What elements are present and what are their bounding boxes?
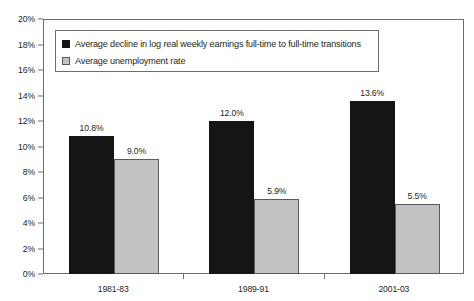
x-tick-label: 2001-03 — [378, 284, 409, 294]
bar-2001-03-series-0 — [350, 101, 395, 274]
x-tick-label: 1989-91 — [238, 284, 269, 294]
legend-item-label: Average unemployment rate — [75, 56, 185, 66]
y-tick-label: 10% — [18, 142, 35, 152]
y-tick-label: 16% — [18, 65, 35, 75]
legend-item: Average decline in log real weekly earni… — [62, 36, 378, 52]
y-tick-label: 18% — [18, 40, 35, 50]
bar-2001-03-series-1 — [395, 204, 440, 274]
y-tick-label: 12% — [18, 116, 35, 126]
y-tick-label: 20% — [18, 14, 35, 24]
bar-1981-83-series-1 — [114, 159, 159, 274]
y-tick-label: 6% — [23, 193, 35, 203]
bar-value-label: 5.9% — [267, 186, 286, 196]
x-tick-mark — [183, 274, 184, 279]
x-tick-label: 1981-83 — [98, 284, 129, 294]
y-tick-label: 4% — [23, 218, 35, 228]
cut-off-title — [0, 0, 474, 3]
bar-value-label: 13.6% — [360, 88, 384, 98]
y-axis: 0%2%4%6%8%10%12%14%16%18%20% — [0, 19, 43, 275]
bar-value-label: 10.8% — [80, 123, 104, 133]
y-tick-label: 14% — [18, 91, 35, 101]
bar-1981-83-series-0 — [69, 136, 114, 274]
legend-item-label: Average decline in log real weekly earni… — [75, 39, 361, 49]
y-tick-label: 2% — [23, 244, 35, 254]
black-square-swatch — [62, 40, 70, 48]
bar-value-label: 9.0% — [127, 146, 146, 156]
bar-value-label: 5.5% — [408, 191, 427, 201]
y-tick-label: 0% — [23, 269, 35, 279]
bar-1989-91-series-0 — [209, 121, 254, 274]
x-tick-mark — [324, 274, 325, 279]
bar-value-label: 12.0% — [220, 108, 244, 118]
x-axis: 1981-831989-912001-03 — [43, 274, 465, 301]
bar-chart: 0%2%4%6%8%10%12%14%16%18%20% 10.8%9.0%12… — [0, 0, 474, 301]
gray-square-swatch — [62, 57, 70, 65]
chart-legend: Average decline in log real weekly earni… — [55, 30, 379, 72]
y-tick-label: 8% — [23, 167, 35, 177]
bar-1989-91-series-1 — [254, 199, 299, 274]
legend-item: Average unemployment rate — [62, 53, 378, 69]
